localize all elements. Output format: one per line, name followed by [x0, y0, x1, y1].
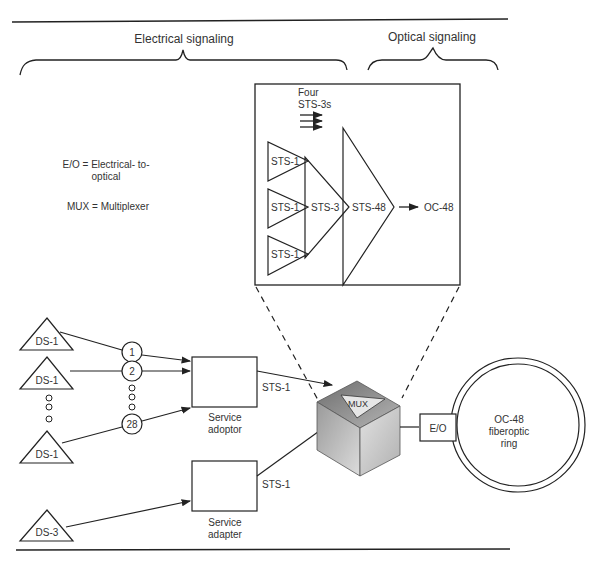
- service-adaptor-top: [192, 357, 257, 407]
- oc48-output-label: OC-48: [424, 202, 454, 213]
- service-adapter-bottom-label2: adapter: [208, 529, 243, 540]
- ellipsis-dots-left: [46, 395, 52, 422]
- service-adapter-bottom: [192, 461, 257, 511]
- electrical-brace: [20, 50, 347, 75]
- ring-label-2: fiberoptic: [489, 426, 530, 437]
- optical-brace: [368, 48, 498, 70]
- arrow-ch28: [142, 408, 190, 421]
- ellipsis-dots-channels: [129, 385, 135, 410]
- link-ds3: [66, 501, 190, 527]
- ring-inner: [457, 364, 579, 486]
- sts1-top-output-label: STS-1: [262, 382, 291, 393]
- mux-label: MUX: [348, 399, 368, 409]
- sts1-label-3: STS-1: [271, 249, 300, 260]
- mux-cube: MUX: [317, 381, 400, 476]
- ds1-label-3: DS-1: [36, 449, 59, 460]
- top-rule: [12, 19, 508, 22]
- ds3-label: DS-3: [36, 527, 59, 538]
- ring-label-3: ring: [501, 438, 518, 449]
- legend-eo-line1: E/O = Electrical- to-: [63, 159, 150, 170]
- sonet-diagram: Electrical signaling Optical signaling E…: [0, 0, 597, 562]
- arrow-ch1: [142, 355, 190, 361]
- legend-mux: MUX = Multiplexer: [67, 201, 150, 212]
- channel-2-label: 2: [129, 366, 135, 377]
- ds1-label-2: DS-1: [36, 375, 59, 386]
- four-label: Four: [298, 87, 319, 98]
- sts1-label-2: STS-1: [271, 202, 300, 213]
- link-ds1-28: [62, 427, 122, 443]
- projection-right: [402, 287, 459, 398]
- channel-28-label: 28: [126, 419, 138, 430]
- legend-eo-line2: optical: [92, 171, 121, 182]
- channel-1-label: 1: [129, 347, 135, 358]
- optical-signaling-label: Optical signaling: [388, 30, 476, 44]
- service-adaptor-top-label1: Service: [208, 412, 242, 423]
- eo-label: E/O: [429, 423, 446, 434]
- service-adaptor-top-label2: adoptor: [208, 424, 243, 435]
- sts1-bottom-output-label: STS-1: [262, 479, 291, 490]
- ring-label-1: OC-48: [494, 414, 524, 425]
- service-adapter-bottom-label1: Service: [208, 517, 242, 528]
- bottom-rule: [16, 549, 510, 550]
- ds1-label-1: DS-1: [36, 336, 59, 347]
- electrical-signaling-label: Electrical signaling: [134, 32, 233, 46]
- sts48-label: STS-48: [352, 202, 386, 213]
- sts3-label: STS-3: [311, 202, 340, 213]
- sts3s-label: STS-3s: [298, 99, 331, 110]
- sts1-label-1: STS-1: [271, 156, 300, 167]
